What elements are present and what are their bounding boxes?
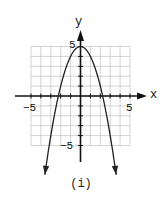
y-tick-pos5: 5 bbox=[69, 40, 76, 51]
curve-arrowheads bbox=[43, 165, 118, 174]
figure-caption: (i) bbox=[0, 177, 162, 191]
y-axis-label: y bbox=[75, 15, 82, 29]
x-axis-label: x bbox=[150, 88, 157, 102]
parabola-graph bbox=[0, 0, 162, 200]
y-tick-neg5: −5 bbox=[60, 141, 73, 152]
x-tick-neg5: −5 bbox=[23, 103, 36, 114]
x-tick-pos5: 5 bbox=[126, 103, 133, 114]
axes bbox=[15, 30, 147, 162]
